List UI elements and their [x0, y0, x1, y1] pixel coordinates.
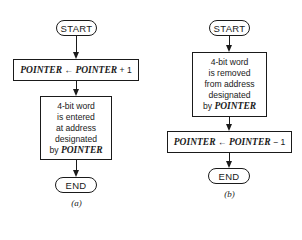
box-line: is entered [49, 112, 102, 123]
write-word-box: 4-bit word is entered at address designa… [40, 96, 112, 160]
read-word-box: 4-bit word is removed from address desig… [192, 52, 267, 117]
arrow-down-icon [226, 45, 232, 52]
caption-b: (b) [209, 189, 250, 199]
increment-pointer-box: POINTER ← POINTER + 1 [13, 59, 139, 81]
arrow-down-icon [73, 52, 79, 59]
start-label-b: START [214, 23, 246, 34]
end-label-b: END [219, 171, 240, 182]
pointer-var: POINTER [229, 137, 271, 147]
box-line: 4-bit word [203, 57, 256, 68]
start-label-a: START [61, 23, 93, 34]
box-line: by [203, 101, 212, 111]
box-line: by [49, 145, 58, 155]
arrow-down-icon [73, 89, 79, 96]
arrow-down-icon [226, 124, 232, 131]
assign-arrow: ← [218, 137, 227, 147]
start-terminal-a: START [56, 20, 97, 36]
pointer-var: POINTER [20, 65, 62, 75]
pointer-var: POINTER [75, 65, 117, 75]
start-terminal-b: START [209, 20, 250, 36]
pointer-var: POINTER [214, 101, 256, 111]
box-line: from address [203, 79, 256, 90]
caption-a: (a) [56, 198, 97, 208]
arrow-down-icon [73, 170, 79, 177]
increment-op: + 1 [119, 65, 131, 75]
box-line: designated [49, 134, 102, 145]
end-terminal-b: END [208, 168, 250, 184]
arrow-down-icon [226, 161, 232, 168]
pointer-var: POINTER [61, 145, 103, 155]
connector-a1 [76, 36, 77, 53]
assign-arrow: ← [64, 65, 73, 75]
box-line: is removed [203, 68, 256, 79]
pointer-var: POINTER [174, 137, 216, 147]
decrement-pointer-box: POINTER ← POINTER − 1 [167, 131, 292, 153]
box-line: at address [49, 123, 102, 134]
end-terminal-a: END [55, 177, 97, 193]
box-line: designated [203, 90, 256, 101]
end-label-a: END [66, 180, 87, 191]
box-line: 4-bit word [49, 101, 102, 112]
decrement-op: − 1 [273, 137, 285, 147]
